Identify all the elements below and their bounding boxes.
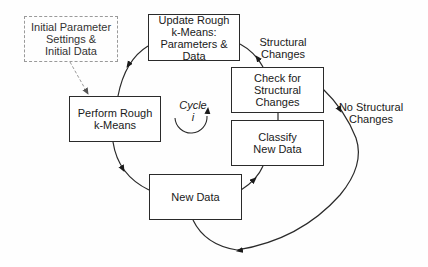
node-initial-parameter-settings: Initial Parameter Settings & Initial Dat… <box>24 16 118 62</box>
node-check-structural-changes: Check for Structural Changes <box>231 67 324 113</box>
node-perform-rough-kmeans: Perform Rough k-Means <box>69 96 161 142</box>
edge-init-to-perform <box>70 62 88 94</box>
edge-update-to-perform <box>118 46 148 96</box>
edge-perform-to-newdata <box>113 142 149 190</box>
cycle-label: Cycle <box>178 99 208 111</box>
cycle-index: i <box>186 111 200 123</box>
node-new-data: New Data <box>149 174 242 220</box>
edge-newdata-to-classify <box>241 166 263 190</box>
edge-label-structural-changes: Structural Changes <box>255 36 311 60</box>
edge-check-to-newdata <box>193 89 358 250</box>
node-update-rough-kmeans: Update Rough k-Means: Parameters & Data <box>148 14 240 61</box>
rough-kmeans-cycle-diagram: Initial Parameter Settings & Initial Dat… <box>0 0 428 267</box>
edge-label-no-structural-changes: No Structural Changes <box>336 101 406 125</box>
node-classify-new-data: Classify New Data <box>231 120 324 166</box>
